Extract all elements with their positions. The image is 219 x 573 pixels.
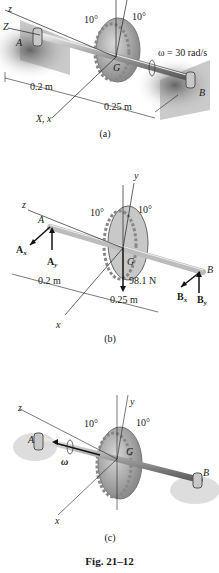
dimension-0-2m: 0.2 m [30,82,53,92]
point-label-G: G [126,447,133,457]
panel-caption-b: (b) [95,333,125,344]
angle-label-1: 10° [84,419,98,429]
shaft-gear-diagram-c [0,395,219,555]
point-label-A: A [28,435,34,445]
panel-c: y z 10° 10° A G ω B x (c) [0,395,219,555]
axis-label-z: z [22,200,26,210]
dimension-0-25m: 0.25 m [110,295,138,305]
axis-label-z: z [18,403,22,413]
force-label-Bx: Bx [177,292,187,304]
dimension-0-25m: 0.25 m [104,102,132,112]
force-label-Ay: Ay [47,257,57,269]
axis-label-Xx: X, x [36,114,52,124]
angle-label-2: 10° [136,418,150,428]
axis-label-y: y [130,397,134,407]
panel-b: y z 10° 10° A Ax Ay G 98.1 N B Bx By 0.2… [0,165,219,335]
point-label-B: B [199,88,205,98]
force-label-By: By [197,295,207,307]
point-label-B: B [203,468,209,478]
figure-caption: Fig. 21–12 [0,555,219,567]
angle-label-1: 10° [90,208,104,218]
axis-label-x: x [56,320,60,330]
point-label-G: G [127,257,134,267]
omega-label: ω = 30 rad/s [158,48,207,58]
angle-label-1: 10° [84,15,98,25]
point-label-A: A [38,215,44,225]
force-label-Ax: Ax [16,245,27,257]
omega-label: ω [61,457,68,467]
point-label-A: A [16,38,22,48]
free-body-diagram-b [0,165,219,335]
axis-label-Z: Z [3,22,9,32]
axis-label-z: z [8,4,12,14]
angle-label-2: 10° [132,12,146,22]
weight-label: 98.1 N [129,276,156,286]
axis-label-y: y [134,171,138,181]
point-label-B: B [207,265,213,275]
panel-caption-c: (c) [95,532,125,543]
dimension-0-2m: 0.2 m [38,276,61,286]
point-label-G: G [113,63,120,73]
axis-label-x: x [55,516,59,526]
panel-caption-a: (a) [90,128,120,139]
panel-a: z Z A 10° 10° G ω = 30 rad/s B 0.2 m 0.2… [0,0,219,160]
angle-label-2: 10° [138,205,152,215]
